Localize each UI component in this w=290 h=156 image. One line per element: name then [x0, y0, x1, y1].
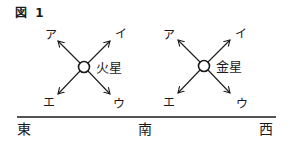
- venus-label-e: エ: [163, 97, 175, 109]
- mars-arrow-a: [58, 41, 80, 63]
- mars-circle-icon: [79, 62, 90, 73]
- mars-label-u: ウ: [113, 98, 125, 110]
- mars-name: 火星: [96, 61, 122, 74]
- mars-arrow-e: [58, 71, 80, 94]
- mars-label-e: エ: [43, 97, 55, 109]
- venus-arrow-e: [178, 70, 200, 93]
- venus-label-a: ア: [163, 29, 175, 41]
- mars-label-i: イ: [115, 28, 127, 40]
- venus-circle-icon: [199, 61, 210, 72]
- direction-east: 東: [17, 122, 31, 136]
- venus-label-i: イ: [235, 28, 247, 40]
- direction-west: 西: [259, 122, 273, 136]
- venus-name: 金星: [216, 60, 242, 73]
- mars-label-a: ア: [45, 29, 57, 41]
- direction-south: 南: [138, 122, 152, 136]
- venus-arrow-a: [178, 40, 200, 62]
- venus-label-u: ウ: [236, 98, 248, 110]
